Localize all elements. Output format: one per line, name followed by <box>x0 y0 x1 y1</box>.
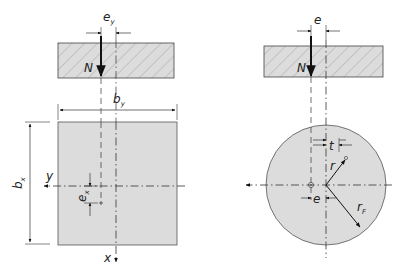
left-by-dimension: by <box>58 92 177 120</box>
ey-label: ey <box>103 10 115 26</box>
column-eccentric-load-diagram: ey N by bx y x <box>0 0 401 273</box>
y-axis-label: y <box>45 169 54 183</box>
right-load-label: N <box>297 61 306 75</box>
right-figure: e N t r rF <box>246 13 392 258</box>
right-e-top-dimension: e <box>297 13 340 40</box>
left-section-rect <box>58 122 177 245</box>
left-ey-dimension: ey <box>86 10 131 40</box>
x-axis-label: x <box>103 251 112 265</box>
e-bottom-label: e <box>313 192 320 206</box>
e-top-label: e <box>314 13 321 27</box>
left-bx-dimension: bx <box>11 122 50 244</box>
bx-label: bx <box>11 176 27 189</box>
left-figure: ey N by bx y x <box>11 10 185 265</box>
left-load-label: N <box>84 61 93 75</box>
by-label: by <box>113 92 126 108</box>
right-slab <box>264 46 383 77</box>
